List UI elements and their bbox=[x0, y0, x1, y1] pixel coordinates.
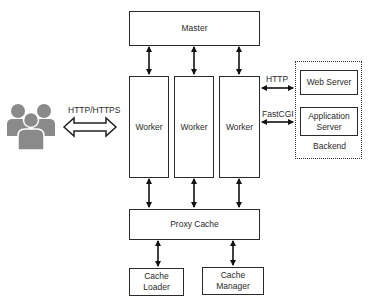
master-label: Master bbox=[182, 23, 208, 34]
proxy-cache-box: Proxy Cache bbox=[129, 209, 260, 240]
worker-label: Worker bbox=[135, 122, 162, 133]
cache-manager-line2: Manager bbox=[216, 281, 250, 292]
users-group-icon bbox=[6, 100, 56, 152]
application-server-line2: Server bbox=[316, 122, 341, 133]
fastcgi-label: FastCGI bbox=[262, 109, 294, 119]
worker-box-2: Worker bbox=[174, 76, 214, 178]
worker-box-1: Worker bbox=[129, 76, 169, 178]
backend-label: Backend bbox=[313, 141, 346, 151]
web-server-box: Web Server bbox=[300, 70, 358, 95]
http-label: HTTP bbox=[266, 74, 288, 84]
worker-label: Worker bbox=[226, 122, 253, 133]
application-server-line1: Application bbox=[308, 111, 350, 122]
http-double-arrow bbox=[64, 118, 116, 136]
cache-loader-line1: Cache bbox=[144, 271, 169, 282]
proxy-cache-label: Proxy Cache bbox=[170, 219, 219, 230]
cache-manager-box: Cache Manager bbox=[202, 267, 264, 295]
cache-loader-box: Cache Loader bbox=[129, 268, 184, 296]
web-server-label: Web Server bbox=[307, 77, 352, 88]
cache-manager-line1: Cache bbox=[221, 270, 246, 281]
application-server-box: Application Server bbox=[300, 107, 358, 136]
worker-label: Worker bbox=[180, 122, 207, 133]
worker-box-3: Worker bbox=[219, 76, 260, 178]
http-https-label: HTTP/HTTPS bbox=[68, 105, 120, 115]
cache-loader-line2: Loader bbox=[143, 282, 169, 293]
master-box: Master bbox=[129, 11, 260, 46]
